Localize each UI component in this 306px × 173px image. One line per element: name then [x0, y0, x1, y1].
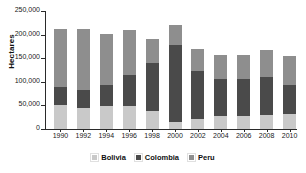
bar-stack — [260, 50, 273, 129]
stacked-bar-chart: Hectares 050,000100,000150,000200,000250… — [0, 0, 306, 173]
bar-segment-colombia — [100, 85, 113, 106]
legend-swatch-colombia — [135, 154, 142, 161]
legend-swatch-bolivia — [91, 154, 98, 161]
x-axis-label: 2002 — [186, 132, 210, 139]
bar-segment-peru — [214, 55, 227, 79]
y-tick-mark — [41, 129, 45, 130]
bar-segment-bolivia — [169, 122, 182, 129]
bar-segment-colombia — [283, 85, 296, 114]
bar-segment-colombia — [77, 90, 90, 107]
plot-area: 050,000100,000150,000200,000250,000 — [45, 11, 297, 129]
bar-stack — [146, 39, 159, 129]
x-axis-label: 2000 — [163, 132, 187, 139]
legend-item-bolivia[interactable]: Bolivia — [91, 153, 126, 162]
legend-swatch-peru — [188, 154, 195, 161]
bar-segment-peru — [146, 39, 159, 63]
bar-segment-peru — [283, 56, 296, 85]
x-axis-label: 2004 — [209, 132, 233, 139]
bar-segment-colombia — [260, 77, 273, 115]
legend-item-colombia[interactable]: Colombia — [135, 153, 179, 162]
y-tick-label: 250,000 — [15, 6, 40, 13]
bar-segment-colombia — [169, 45, 182, 122]
x-axis-label: 1994 — [94, 132, 118, 139]
x-axis-label: 2008 — [255, 132, 279, 139]
bar-stack — [237, 55, 250, 129]
bar-stack — [283, 56, 296, 129]
bar-segment-bolivia — [191, 119, 204, 129]
x-axis-label: 2006 — [232, 132, 256, 139]
bar-stack — [191, 49, 204, 129]
bar-segment-bolivia — [237, 116, 250, 129]
bar-segment-colombia — [237, 79, 250, 116]
bar-segment-peru — [77, 29, 90, 90]
bar-segment-bolivia — [100, 106, 113, 129]
bar-stack — [77, 29, 90, 129]
bar-segment-peru — [100, 34, 113, 85]
bar-segment-colombia — [191, 71, 204, 119]
y-tick-label: 100,000 — [15, 77, 40, 84]
bar-segment-peru — [123, 30, 136, 74]
bar-segment-colombia — [214, 79, 227, 117]
bar-segment-colombia — [146, 63, 159, 111]
bar-segment-bolivia — [54, 105, 67, 129]
bar-segment-bolivia — [214, 116, 227, 129]
bar-segment-peru — [237, 55, 250, 79]
bar-stack — [214, 55, 227, 129]
bar-segment-peru — [169, 25, 182, 45]
bar-stack — [54, 29, 67, 129]
y-tick-label: 200,000 — [15, 30, 40, 37]
bar-segment-bolivia — [260, 115, 273, 129]
chart-legend: BoliviaColombiaPeru — [0, 153, 306, 162]
legend-label: Colombia — [145, 153, 179, 162]
x-axis-label: 2010 — [278, 132, 302, 139]
x-axis-label: 1998 — [140, 132, 164, 139]
y-tick-label: 150,000 — [15, 53, 40, 60]
x-axis-label: 1996 — [117, 132, 141, 139]
x-axis-label: 1992 — [71, 132, 95, 139]
y-tick-label: 50,000 — [19, 100, 40, 107]
bar-segment-bolivia — [283, 114, 296, 129]
bar-segment-colombia — [123, 75, 136, 107]
x-axis-label: 1990 — [48, 132, 72, 139]
y-tick: 0 — [45, 129, 46, 130]
bar-segment-colombia — [54, 87, 67, 106]
legend-item-peru[interactable]: Peru — [188, 153, 215, 162]
bar-stack — [123, 30, 136, 129]
legend-label: Peru — [198, 153, 215, 162]
bar-segment-peru — [260, 50, 273, 76]
bar-stack — [100, 34, 113, 129]
bar-stack — [169, 25, 182, 129]
x-axis-labels: 1990199219941996199820002002200420062008… — [45, 132, 297, 144]
bars-layer — [45, 11, 297, 129]
legend-label: Bolivia — [101, 153, 126, 162]
bar-segment-peru — [191, 49, 204, 71]
y-tick-label: 0 — [36, 124, 40, 131]
bar-segment-bolivia — [123, 106, 136, 129]
bar-segment-bolivia — [146, 111, 159, 129]
bar-segment-bolivia — [77, 108, 90, 129]
bar-segment-peru — [54, 29, 67, 86]
